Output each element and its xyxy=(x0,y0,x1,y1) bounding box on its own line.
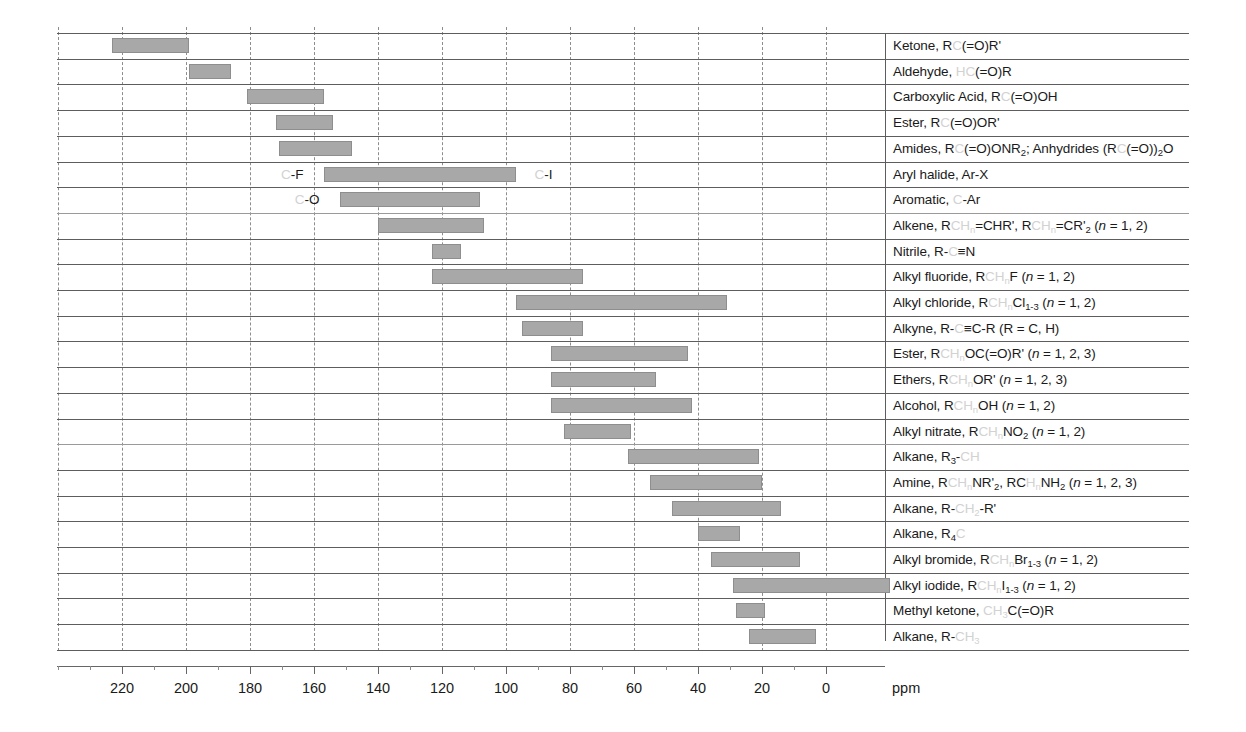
label-segment: = 1, 2) xyxy=(1033,269,1075,284)
label-segment: n xyxy=(1003,372,1010,387)
row-label-aromatic: Aromatic, C-Ar xyxy=(893,187,980,213)
row-label-alkyl-chloride: Alkyl chloride, RCHnCl1-3 (n = 1, 2) xyxy=(893,290,1096,316)
axis-tick-label-140: 140 xyxy=(366,680,390,696)
label-segment: = 1, 2) xyxy=(1054,295,1096,310)
label-segment: Alkyl bromide, R xyxy=(893,552,990,567)
row-label-ester-carbonyl: Ester, RC(=O)OR' xyxy=(893,110,999,136)
label-segment: n xyxy=(1099,218,1106,233)
label-segment: ; Anhydrides (R xyxy=(1026,141,1117,156)
label-segment: C xyxy=(940,115,950,130)
axis-tick-label-100: 100 xyxy=(494,680,518,696)
row-label-alkane-rch2r: Alkane, R-CH2-R' xyxy=(893,496,996,522)
label-segment: (=O)ONR xyxy=(964,141,1021,156)
axis-tick xyxy=(666,666,667,670)
label-segment: Ester, R xyxy=(893,115,940,130)
label-segment: n xyxy=(1047,295,1054,310)
label-segment: NH xyxy=(1041,475,1060,490)
label-segment: Alcohol, R xyxy=(893,398,954,413)
label-segment: CH xyxy=(985,269,1004,284)
label-segment: CH xyxy=(955,501,974,516)
label-segment: C xyxy=(1117,141,1127,156)
label-segment: 1-3 xyxy=(1005,583,1018,594)
label-segment: Ketone, R xyxy=(893,38,952,53)
label-segment: CH xyxy=(955,629,974,644)
axis-tick xyxy=(634,666,635,674)
label-segment: Aryl halide, Ar-X xyxy=(893,167,988,182)
label-segment: Alkyl nitrate, R xyxy=(893,424,978,439)
x-axis-line xyxy=(57,666,885,667)
label-segment: CH xyxy=(978,424,997,439)
plot-area: C-FC-IC-O Ketone, RC(=O)R'Aldehyde, HC(=… xyxy=(57,33,1189,641)
label-segment: CH xyxy=(990,552,1009,567)
label-segment: CH xyxy=(954,398,973,413)
label-segment: 1-3 xyxy=(1025,301,1038,312)
row-label-alkyl-iodide: Alkyl iodide, RCHnI1-3 (n = 1, 2) xyxy=(893,573,1076,599)
label-segment: = 1, 2) xyxy=(1056,552,1098,567)
label-segment: = 1, 2, 3) xyxy=(1011,372,1067,387)
label-segment: ( xyxy=(1039,295,1047,310)
axis-tick xyxy=(538,666,539,670)
label-segment: Methyl ketone, xyxy=(893,603,983,618)
label-segment: CH xyxy=(948,475,967,490)
row-label-ester-alkyl: Ester, RCHnOC(=O)R' (n = 1, 2, 3) xyxy=(893,341,1096,367)
axis-tick-label-40: 40 xyxy=(690,680,706,696)
axis-tick-label-80: 80 xyxy=(562,680,578,696)
label-segment: = 1, 2) xyxy=(1044,424,1086,439)
row-labels-layer: Ketone, RC(=O)R'Aldehyde, HC(=O)RCarboxy… xyxy=(57,33,1189,641)
label-segment: Alkyl chloride, R xyxy=(893,295,988,310)
label-segment: ≡N xyxy=(958,244,975,259)
label-segment: -Ar xyxy=(962,192,980,207)
label-segment: (=O)R' xyxy=(962,38,1001,53)
label-segment: CH xyxy=(951,218,970,233)
label-segment: Br xyxy=(1014,552,1027,567)
axis-tick xyxy=(154,666,155,670)
row-label-alkene: Alkene, RCHn=CHR', RCHn=CR'2 (n = 1, 2) xyxy=(893,213,1148,239)
label-segment: CH xyxy=(948,372,967,387)
row-label-alcohol: Alcohol, RCHnOH (n = 1, 2) xyxy=(893,393,1055,419)
label-segment: C xyxy=(948,244,958,259)
row-label-amine: Amine, RCHnNR'2, RCHnNH2 (n = 1, 2, 3) xyxy=(893,470,1137,496)
label-segment: Alkyne, R- xyxy=(893,321,954,336)
row-label-alkane-r3ch: Alkane, R3-CH xyxy=(893,444,980,470)
label-segment: (=O)OR' xyxy=(950,115,1000,130)
axis-tick xyxy=(250,666,251,674)
axis-tick xyxy=(570,666,571,674)
axis-tick xyxy=(826,666,827,674)
row-label-alkyl-bromide: Alkyl bromide, RCHnBr1-3 (n = 1, 2) xyxy=(893,547,1098,573)
label-segment: =CR' xyxy=(1056,218,1086,233)
label-segment: Alkane, R- xyxy=(893,501,955,516)
label-segment: ( xyxy=(1065,475,1073,490)
label-segment: F ( xyxy=(1010,269,1026,284)
row-label-ketone: Ketone, RC(=O)R' xyxy=(893,33,1001,59)
axis-tick xyxy=(314,666,315,674)
label-segment: C xyxy=(952,38,962,53)
row-label-alkyl-nitrate: Alkyl nitrate, RCHnNO2 (n = 1, 2) xyxy=(893,419,1085,445)
label-segment: = 1, 2, 3) xyxy=(1081,475,1137,490)
label-segment: (=O)R xyxy=(975,64,1012,79)
label-segment: n xyxy=(1036,424,1043,439)
axis-tick xyxy=(730,666,731,670)
axis-tick-label-60: 60 xyxy=(626,680,642,696)
label-segment: C xyxy=(953,192,963,207)
label-segment: = 1, 2) xyxy=(1106,218,1148,233)
label-segment: C(=O)R xyxy=(1008,603,1054,618)
axis-tick xyxy=(794,666,795,670)
label-segment: CH xyxy=(940,346,959,361)
axis-tick xyxy=(282,666,283,670)
axis-tick-label-160: 160 xyxy=(302,680,326,696)
label-segment: n xyxy=(1027,578,1034,593)
label-segment: n xyxy=(1073,475,1080,490)
axis-tick xyxy=(442,666,443,674)
label-segment: Aldehyde, xyxy=(893,64,956,79)
row-label-ethers: Ethers, RCHnOR' (n = 1, 2, 3) xyxy=(893,367,1067,393)
axis-tick xyxy=(122,666,123,674)
axis-tick xyxy=(602,666,603,670)
label-segment: ( xyxy=(1091,218,1099,233)
label-segment: Alkane, R- xyxy=(893,629,955,644)
label-segment: 3 xyxy=(974,635,979,646)
label-segment: (=O)OH xyxy=(1010,89,1057,104)
row-label-carboxylic-acid: Carboxylic Acid, RC(=O)OH xyxy=(893,84,1057,110)
axis-tick-label-120: 120 xyxy=(430,680,454,696)
label-segment: Alkene, R xyxy=(893,218,951,233)
row-label-alkyl-fluoride: Alkyl fluoride, RCHnF (n = 1, 2) xyxy=(893,264,1075,290)
